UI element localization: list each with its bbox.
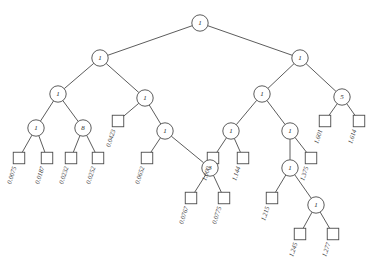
tree-edge	[208, 26, 293, 56]
leaf-node[interactable]	[319, 115, 331, 127]
leaf-node[interactable]	[185, 192, 197, 204]
tree-edge	[171, 136, 203, 163]
leaf-node[interactable]	[41, 152, 53, 164]
leaf-node[interactable]	[327, 228, 339, 240]
leaf-node-label: 1.245	[287, 241, 298, 258]
internal-node-label: 1	[163, 127, 167, 135]
leaf-node-label: 0.0232	[57, 165, 69, 185]
tree-edge	[39, 136, 45, 153]
internal-node[interactable]: 1	[50, 86, 66, 102]
leaf-node-label: 1.614	[346, 128, 357, 145]
tree-edge	[73, 136, 80, 153]
leaf-node-label: 0.0652	[133, 165, 145, 185]
internal-node-label: 1	[288, 127, 292, 135]
internal-node-label: 8	[81, 124, 85, 132]
internal-node[interactable]: 1	[308, 197, 324, 213]
internal-node-label: 1	[314, 201, 318, 209]
tree-edge	[295, 137, 307, 153]
leaf-node[interactable]	[294, 228, 306, 240]
tree-edge	[108, 26, 193, 56]
leaf-node-label: 0.0187	[33, 165, 45, 185]
tree-edge	[328, 104, 337, 117]
internal-node-label: 1	[98, 54, 102, 62]
leaf-node-label: 0.0423	[104, 128, 116, 148]
leaf-node[interactable]	[65, 152, 77, 164]
tree-diagram-canvas: 111111518111311 0.00750.01870.02320.0252…	[0, 0, 376, 273]
tree-edge	[267, 101, 285, 125]
internal-node-label: 1	[288, 164, 292, 172]
leaf-node-label: 1.277	[320, 241, 331, 258]
tree-edge	[122, 103, 138, 117]
leaf-node-label: 1.601	[312, 128, 323, 144]
tree-edge	[320, 212, 330, 229]
tree-edge	[64, 63, 94, 88]
tree-edge	[268, 64, 294, 89]
internal-node[interactable]: 1	[28, 120, 44, 136]
leaf-node[interactable]	[266, 192, 278, 204]
leaf-node[interactable]	[141, 152, 153, 164]
tree-edge	[150, 138, 160, 153]
tree-edge	[275, 175, 286, 193]
internal-node-label: 1	[198, 19, 202, 27]
internal-node[interactable]: 5	[334, 89, 350, 105]
tree-edge	[40, 101, 53, 121]
internal-node[interactable]: 1	[292, 50, 308, 66]
tree-edge	[149, 105, 161, 124]
internal-node[interactable]: 1	[157, 123, 173, 139]
internal-node[interactable]: 1	[137, 90, 153, 106]
tree-edge	[22, 135, 32, 153]
tree-edge	[236, 100, 256, 124]
leaf-node-label: 0.0775	[210, 205, 222, 225]
tree-diagram-svg: 111111518111311 0.00750.01870.02320.0252…	[0, 0, 376, 273]
internal-node[interactable]: 8	[75, 120, 91, 136]
tree-edge	[87, 135, 96, 153]
tree-edge	[106, 63, 139, 92]
leaf-node-label: 0.0252	[84, 165, 96, 185]
leaf-node[interactable]	[305, 152, 317, 164]
tree-edge	[213, 175, 221, 192]
internal-node-label: 1	[229, 127, 233, 135]
internal-node-label: 1	[34, 124, 38, 132]
leaf-node[interactable]	[13, 152, 25, 164]
leaf-node[interactable]	[92, 152, 104, 164]
internal-node[interactable]: 1	[254, 86, 270, 102]
internal-nodes-layer: 111111518111311	[28, 15, 350, 213]
internal-node-label: 1	[298, 54, 302, 62]
leaf-node[interactable]	[237, 152, 249, 164]
leaf-node-label: 0.0075	[5, 165, 17, 185]
internal-node[interactable]: 1	[223, 123, 239, 139]
leaf-node-label: 1.375	[298, 165, 309, 182]
tree-edge	[347, 104, 356, 117]
internal-node[interactable]: 1	[282, 160, 298, 176]
internal-node-label: 5	[340, 93, 344, 101]
tree-edge	[234, 138, 240, 152]
internal-node-label: 1	[143, 94, 147, 102]
leaf-node[interactable]	[218, 192, 230, 204]
internal-node-label: 1	[56, 90, 60, 98]
tree-edge	[306, 64, 336, 92]
leaf-node-label: 1.144	[230, 165, 241, 182]
leaf-node[interactable]	[112, 115, 124, 127]
internal-node[interactable]: 1	[192, 15, 208, 31]
leaf-node-label: 0.0767	[177, 205, 189, 225]
leaf-node[interactable]	[353, 115, 365, 127]
tree-edge	[303, 212, 312, 229]
internal-node[interactable]: 1	[282, 123, 298, 139]
tree-edge	[63, 101, 78, 122]
internal-node-label: 1	[260, 90, 264, 98]
leaf-node-label: 1.215	[259, 205, 270, 222]
internal-node[interactable]: 1	[92, 50, 108, 66]
tree-edge	[216, 138, 226, 153]
